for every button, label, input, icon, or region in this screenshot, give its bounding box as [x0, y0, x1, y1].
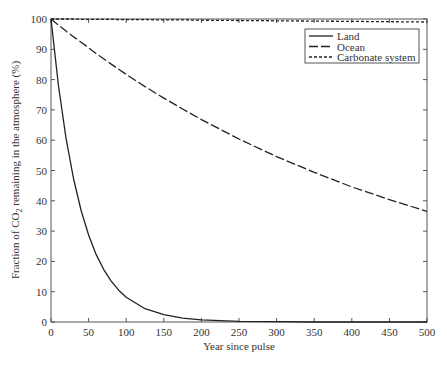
- x-tick-label: 100: [118, 326, 135, 338]
- x-tick-label: 200: [193, 326, 210, 338]
- y-tick-label: 20: [36, 255, 48, 267]
- y-tick-label: 40: [36, 195, 48, 207]
- y-axis-label-suffix: remaining in the atmosphere (%): [9, 61, 22, 209]
- x-tick-label: 300: [268, 326, 285, 338]
- y-tick-label: 90: [36, 43, 48, 55]
- y-tick-label: 10: [36, 286, 48, 298]
- y-tick-label: 70: [36, 104, 48, 116]
- y-tick-label: 30: [36, 225, 48, 237]
- y-tick-label: 100: [31, 13, 48, 25]
- x-tick-label: 150: [156, 326, 173, 338]
- legend-label: Carbonate system: [337, 51, 416, 63]
- y-tick-label: 0: [42, 316, 48, 328]
- plot-area: [51, 19, 427, 322]
- y-axis-label-prefix: Fraction of CO: [9, 212, 21, 279]
- plot-border: [51, 19, 427, 322]
- x-tick-label: 400: [344, 326, 361, 338]
- x-tick-label: 450: [381, 326, 398, 338]
- y-tick-label: 50: [36, 165, 48, 177]
- series-land-line: [51, 19, 427, 322]
- x-tick-label: 500: [419, 326, 436, 338]
- data-series: [51, 19, 427, 322]
- x-tick-label: 350: [306, 326, 323, 338]
- y-axis-label: Fraction of CO2 remaining in the atmosph…: [9, 61, 24, 279]
- x-tick-label: 0: [48, 326, 54, 338]
- x-tick-label: 50: [83, 326, 95, 338]
- x-tick-label: 250: [231, 326, 248, 338]
- co2-decay-chart: 0501001502002503003504004505000102030405…: [0, 0, 447, 367]
- x-axis-label: Year since pulse: [203, 340, 275, 352]
- y-tick-label: 60: [36, 134, 48, 146]
- legend: LandOceanCarbonate system: [305, 29, 419, 63]
- y-tick-label: 80: [36, 74, 48, 86]
